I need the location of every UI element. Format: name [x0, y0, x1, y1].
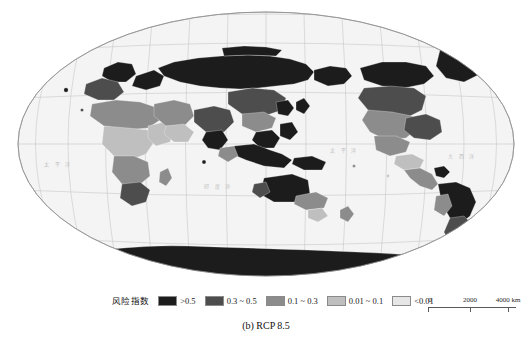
scale-label-4000: 4000 km [496, 296, 521, 304]
figure-caption: (b) RCP 8.5 [0, 320, 532, 331]
scale-tick-0 [428, 307, 429, 312]
legend-swatch-risk-low [327, 296, 346, 306]
figure-panel: 太 平 洋 大 西 洋 印 度 洋 太 平 洋 风险指数 >0.5 0.3 ~ … [0, 0, 532, 342]
scale-tick-2 [508, 307, 509, 312]
legend-label-risk-medium: 0.1 ~ 0.3 [288, 297, 318, 306]
legend-item-risk-very-high[interactable]: >0.5 [158, 296, 195, 306]
ocean-label-pacific: 太 平 洋 [330, 147, 358, 154]
legend-label-risk-high: 0.3 ~ 0.5 [227, 297, 257, 306]
legend-title: 风险指数 [112, 297, 149, 306]
scale-tick-1 [470, 307, 471, 312]
legend: 风险指数 >0.5 0.3 ~ 0.5 0.1 ~ 0.3 0.01 ~ 0.1… [112, 296, 439, 306]
legend-item-risk-medium[interactable]: 0.1 ~ 0.3 [266, 296, 318, 306]
scale-label-2000: 2000 [463, 296, 477, 304]
ocean-label-indian: 印 度 洋 [204, 183, 232, 190]
scale-bar-labels: 0 2000 4000 km [428, 296, 524, 305]
scale-bar: 0 2000 4000 km [428, 296, 524, 318]
legend-item-risk-high[interactable]: 0.3 ~ 0.5 [205, 296, 257, 306]
scale-bar-axis [428, 307, 516, 308]
ocean-label-atlantic: 大 西 洋 [448, 153, 476, 160]
world-map[interactable]: 太 平 洋 大 西 洋 印 度 洋 太 平 洋 [8, 6, 524, 288]
map-canvas[interactable]: 太 平 洋 大 西 洋 印 度 洋 太 平 洋 [8, 6, 524, 288]
legend-item-risk-low[interactable]: 0.01 ~ 0.1 [327, 296, 383, 306]
legend-swatch-risk-very-high [158, 296, 177, 306]
legend-label-risk-low: 0.01 ~ 0.1 [349, 297, 383, 306]
ocean-label-pacific-west: 太 平 洋 [44, 161, 72, 168]
legend-label-risk-very-high: >0.5 [180, 297, 195, 306]
legend-swatch-risk-medium [266, 296, 285, 306]
legend-swatch-risk-high [205, 296, 224, 306]
scale-label-0: 0 [428, 296, 432, 304]
legend-swatch-risk-very-low [392, 296, 411, 306]
scale-bar-ruler [428, 307, 516, 314]
